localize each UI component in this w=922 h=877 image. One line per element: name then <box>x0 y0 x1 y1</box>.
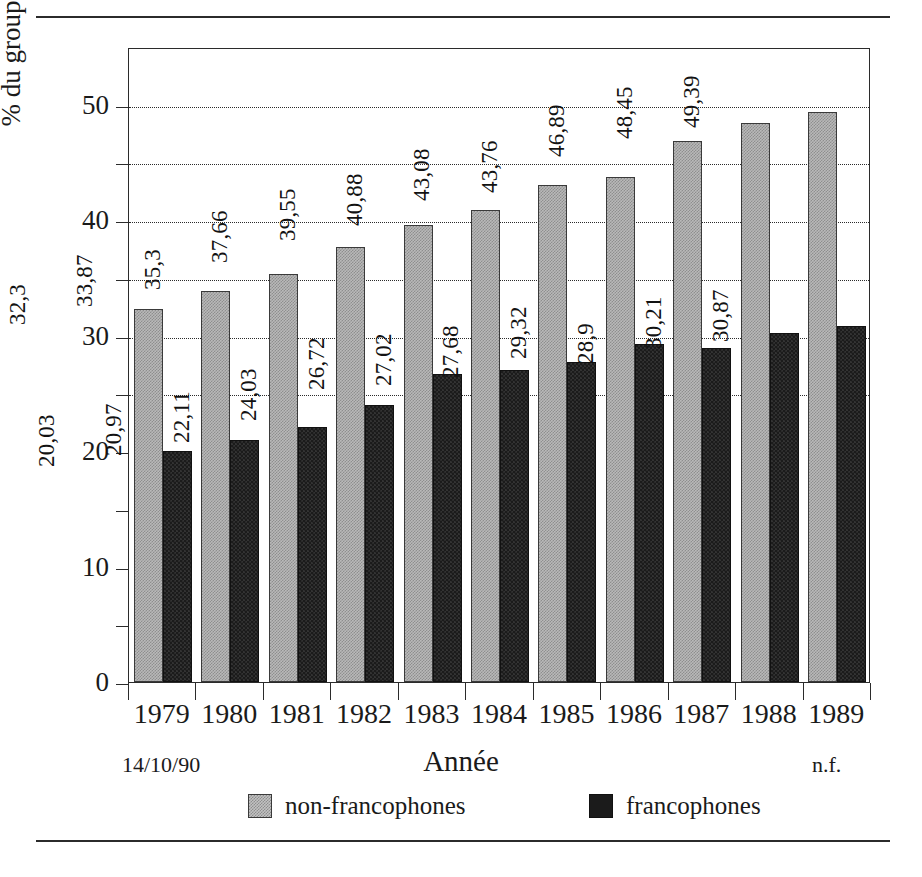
bar-francophones-1985[interactable] <box>567 362 596 682</box>
footnote-date: 14/10/90 <box>122 752 200 778</box>
x-axis-tick <box>195 683 196 700</box>
bar-francophones-1980[interactable] <box>230 440 259 682</box>
bar-non-francophones-1981[interactable] <box>269 274 298 682</box>
x-axis-tick-label-1986: 1986 <box>600 700 667 728</box>
x-axis-tick-label-1989: 1989 <box>803 700 870 728</box>
bar-value-label: 20,03 <box>35 414 58 467</box>
y-axis-tick-label: 50 <box>49 92 109 119</box>
bar-non-francophones-1987[interactable] <box>673 141 702 682</box>
bar-value-label: 33,87 <box>73 254 96 307</box>
x-axis-tick-label-1982: 1982 <box>330 700 397 728</box>
x-axis-tick-label-1985: 1985 <box>533 700 600 728</box>
bar-non-francophones-1983[interactable] <box>404 225 433 682</box>
y-axis-major-tick <box>116 222 129 223</box>
x-axis-tick <box>870 683 871 700</box>
bar-non-francophones-1982[interactable] <box>336 247 365 682</box>
bar-value-label: 49,39 <box>680 75 703 128</box>
x-axis-tick <box>803 683 804 700</box>
bar-group <box>129 49 196 682</box>
bar-value-label: 48,45 <box>613 86 636 139</box>
bar-francophones-1979[interactable] <box>163 451 192 682</box>
title-remnant <box>0 0 922 8</box>
bar-value-label: 20,97 <box>102 403 125 456</box>
bar-non-francophones-1980[interactable] <box>201 291 230 682</box>
bar-value-label: 32,3 <box>6 284 29 325</box>
bar-francophones-1984[interactable] <box>500 370 529 682</box>
bar-value-label: 28,9 <box>574 323 597 364</box>
bar-group <box>669 49 736 682</box>
x-axis-tick <box>263 683 264 700</box>
x-axis-tick-label-1987: 1987 <box>668 700 735 728</box>
x-axis-tick <box>735 683 736 700</box>
x-axis-tick <box>330 683 331 700</box>
x-axis-tick <box>600 683 601 700</box>
y-axis-minor-tick <box>116 164 129 165</box>
y-axis-major-tick <box>116 338 129 339</box>
bar-value-label: 40,88 <box>343 173 366 226</box>
bar-value-label: 26,72 <box>305 337 328 390</box>
legend-item-label: francophones <box>626 793 761 818</box>
y-axis-minor-tick <box>116 395 129 396</box>
y-axis-major-tick <box>116 569 129 570</box>
bar-value-label: 27,68 <box>439 326 462 379</box>
y-axis-minor-tick <box>116 511 129 512</box>
bottom-rule <box>36 840 890 842</box>
bar-francophones-1988[interactable] <box>770 333 799 682</box>
bar-francophones-1981[interactable] <box>298 427 327 682</box>
bar-group <box>196 49 263 682</box>
y-axis-tick-label: 10 <box>49 554 109 581</box>
bar-francophones-1989[interactable] <box>837 326 866 682</box>
bar-non-francophones-1984[interactable] <box>471 210 500 682</box>
bar-value-label: 35,3 <box>141 249 164 290</box>
legend-swatch-icon <box>248 794 272 818</box>
bar-value-label: 30,87 <box>709 289 732 342</box>
bar-value-label: 43,08 <box>410 148 433 201</box>
legend-swatch-icon <box>589 794 613 818</box>
y-axis-label: % du groupe d'âge 18-21 ans <box>0 0 25 180</box>
bar-value-label: 24,03 <box>237 368 260 421</box>
bar-non-francophones-1985[interactable] <box>538 185 567 682</box>
y-axis-tick-label: 40 <box>49 207 109 234</box>
bar-value-label: 29,32 <box>507 307 530 360</box>
bar-non-francophones-1979[interactable] <box>134 309 163 682</box>
footnote-source: n.f. <box>812 752 841 778</box>
x-axis-tick-label-1980: 1980 <box>195 700 262 728</box>
chart-legend: non-francophones francophones <box>0 793 922 827</box>
bar-francophones-1986[interactable] <box>635 344 664 683</box>
bar-value-label: 37,66 <box>208 210 231 263</box>
bar-group <box>736 49 803 682</box>
x-axis-tick <box>128 683 129 700</box>
legend-item-label: non-francophones <box>285 793 466 818</box>
bar-non-francophones-1989[interactable] <box>808 112 837 682</box>
y-axis-tick-label: 30 <box>49 323 109 350</box>
y-axis-minor-tick <box>116 626 129 627</box>
x-axis-tick-label-1981: 1981 <box>263 700 330 728</box>
y-axis-tick-label: 0 <box>49 669 109 696</box>
x-axis-tick-label-1979: 1979 <box>128 700 195 728</box>
bar-value-label: 30,21 <box>642 296 665 349</box>
bar-value-label: 22,11 <box>170 391 193 443</box>
bar-value-label: 43,76 <box>478 140 501 193</box>
bar-value-label: 39,55 <box>276 189 299 242</box>
top-rule <box>36 16 890 18</box>
legend-item-francophones[interactable]: francophones <box>589 793 761 818</box>
bar-group <box>601 49 668 682</box>
legend-item-non-francophones[interactable]: non-francophones <box>248 793 466 818</box>
bar-non-francophones-1988[interactable] <box>741 123 770 682</box>
x-axis-tick-label-1988: 1988 <box>735 700 802 728</box>
bar-value-label: 46,89 <box>545 104 568 157</box>
x-axis-tick <box>533 683 534 700</box>
bar-value-label: 27,02 <box>372 333 395 386</box>
y-axis-minor-tick <box>116 280 129 281</box>
bar-francophones-1983[interactable] <box>433 374 462 682</box>
bar-non-francophones-1986[interactable] <box>606 177 635 682</box>
x-axis-tick <box>465 683 466 700</box>
x-axis-tick-label-1984: 1984 <box>465 700 532 728</box>
bar-francophones-1982[interactable] <box>365 405 394 682</box>
x-axis-tick <box>398 683 399 700</box>
bar-group <box>804 49 871 682</box>
bar-francophones-1987[interactable] <box>702 348 731 682</box>
y-axis-major-tick <box>116 107 129 108</box>
x-axis-tick-label-1983: 1983 <box>398 700 465 728</box>
x-axis-tick <box>668 683 669 700</box>
